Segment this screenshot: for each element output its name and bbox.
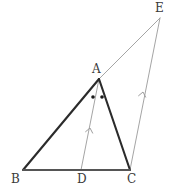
vertex-label-D: D [77,173,87,185]
segment-CE [130,18,160,170]
geometry-figure: A B C D E [0,0,173,193]
vertex-label-C: C [127,173,136,185]
vertex-label-E: E [155,2,164,14]
segment-AC [99,79,130,170]
segment-DA [81,79,99,170]
segment-AE [99,18,160,79]
geometry-canvas [0,0,173,193]
angle-dot-DAC [100,95,104,99]
vertex-label-B: B [11,173,20,185]
segment-AB [23,79,99,170]
arrow-mark-DA [86,127,94,133]
angle-dot-BAD [91,95,95,99]
vertex-label-A: A [92,63,101,75]
